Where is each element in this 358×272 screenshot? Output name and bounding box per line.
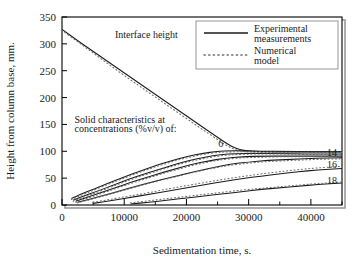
chart-figure: 050100150200250300350 010000200003000040… — [0, 0, 358, 272]
curve-label-18: 18 — [327, 175, 337, 186]
curve-label-6: 6 — [218, 138, 223, 149]
legend-label-experimental-line2: measurements — [254, 33, 311, 44]
x-tick-label: 40000 — [297, 211, 325, 223]
x-tick-label: 30000 — [235, 211, 263, 223]
y-tick-label: 250 — [40, 65, 57, 77]
annotation-interface-height: Interface height — [115, 29, 178, 40]
x-tick-label: 0 — [59, 211, 65, 223]
y-tick-label: 300 — [40, 38, 57, 50]
y-tick-label: 100 — [40, 145, 57, 157]
x-tick-label: 10000 — [110, 211, 138, 223]
chart-legend: Experimental measurements Numerical mode… — [196, 21, 338, 69]
legend-label-numerical-line2: model — [254, 55, 279, 66]
sedimentation-chart: 050100150200250300350 010000200003000040… — [0, 0, 358, 272]
y-axis-title: Height from column base, mm. — [4, 42, 16, 180]
x-axis-title: Sedimentation time, s. — [153, 244, 252, 256]
curve-label-16: 16 — [327, 159, 337, 170]
y-tick-label: 350 — [40, 11, 57, 23]
x-tick-label: 20000 — [173, 211, 201, 223]
y-tick-label: 150 — [40, 118, 57, 130]
y-tick-label: 50 — [45, 172, 57, 184]
y-tick-label: 200 — [40, 92, 57, 104]
y-tick-label: 0 — [51, 199, 57, 211]
annotation-solid-characteristics-line2: concentrations (%v/v) of: — [74, 123, 176, 135]
curve-label-14: 14 — [327, 147, 337, 158]
